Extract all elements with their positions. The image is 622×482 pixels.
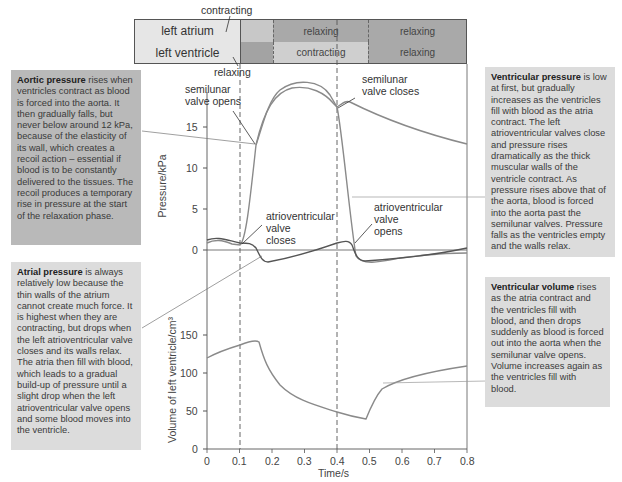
annotation-line: valve xyxy=(266,222,335,234)
box-text: rises when ventricles contract as blood … xyxy=(17,75,133,221)
x-tick-0: 0 xyxy=(204,455,210,467)
annotation-semilunar-opens: semilunar valve opens xyxy=(185,83,241,107)
annotation-line: closes xyxy=(266,234,335,246)
x-tick-0.1: 0.1 xyxy=(232,455,247,467)
annotation-line: atrioventricular xyxy=(266,210,335,222)
box-text: rises as the atria contract and the vent… xyxy=(491,282,604,394)
annotation-line: valve xyxy=(374,213,443,225)
x-tick-0.4: 0.4 xyxy=(330,455,345,467)
aortic-pressure-box: Aortic pressure rises when ventricles co… xyxy=(11,70,141,245)
volume-tick-0: 0 xyxy=(192,443,198,455)
volume-tick-100: 100 xyxy=(180,367,198,379)
box-title: Aortic pressure xyxy=(17,75,86,85)
atrial-pressure-box: Atrial pressure is always relatively low… xyxy=(11,262,141,450)
pressure-tick-10: 10 xyxy=(186,162,198,174)
annotation-line: semilunar xyxy=(362,73,419,85)
volume-tick-150: 150 xyxy=(180,329,198,341)
x-tick-0.2: 0.2 xyxy=(265,455,280,467)
ventricular-volume-box: Ventricular volume rises as the atria co… xyxy=(485,277,610,407)
volume-tick-50: 50 xyxy=(186,405,198,417)
annotation-line: semilunar xyxy=(185,83,241,95)
box-title: Ventricular volume xyxy=(491,282,574,292)
annotation-line: valve opens xyxy=(185,95,241,107)
box-text: is low at first, but gradually increases… xyxy=(491,72,607,251)
pressure-tick-15: 15 xyxy=(186,121,198,133)
box-title: Ventricular pressure xyxy=(491,72,581,82)
annotation-av-valve-opens: atrioventricular valve opens xyxy=(374,201,443,237)
annotation-line: atrioventricular xyxy=(374,201,443,213)
pressure-axis-title: Pressure/kPa xyxy=(156,146,168,226)
x-tick-0.7: 0.7 xyxy=(427,455,442,467)
pressure-tick-0: 0 xyxy=(192,244,198,256)
x-tick-0.8: 0.8 xyxy=(460,455,475,467)
x-tick-0.6: 0.6 xyxy=(395,455,410,467)
annotation-av-valve-closes: atrioventricular valve closes xyxy=(266,210,335,246)
ventricular-pressure-box: Ventricular pressure is low at first, bu… xyxy=(485,67,615,257)
x-axis-title: Time/s xyxy=(318,467,349,479)
box-title: Atrial pressure xyxy=(17,267,83,277)
pressure-tick-5: 5 xyxy=(192,203,198,215)
annotation-line: valve closes xyxy=(362,85,419,97)
box-text: is always relatively low because the thi… xyxy=(17,267,133,435)
x-tick-0.5: 0.5 xyxy=(362,455,377,467)
annotation-line: opens xyxy=(374,225,443,237)
volume-axis-title: Volume of left ventricle/cm³ xyxy=(166,300,178,460)
x-tick-0.3: 0.3 xyxy=(297,455,312,467)
annotation-semilunar-closes: semilunar valve closes xyxy=(362,73,419,97)
